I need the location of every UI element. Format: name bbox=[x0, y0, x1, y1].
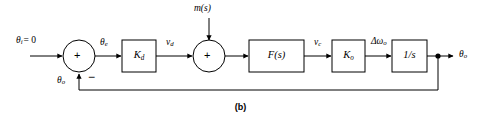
error-summer-plus-sign: + bbox=[74, 50, 80, 61]
block-label-fs: F(s) bbox=[249, 50, 304, 62]
block-label-kd: Kd bbox=[122, 50, 156, 62]
figure-block-diagram: θi= 0 θe vd vc Δωo θo θo m(s) + − + Kd F… bbox=[0, 0, 481, 117]
label-feedback-theta-o: θo bbox=[57, 76, 65, 86]
label-error-theta-e: θe bbox=[100, 38, 108, 48]
disturbance-summer-plus-sign: + bbox=[204, 50, 210, 61]
label-output-theta-o: θo bbox=[459, 50, 467, 60]
label-input-theta-i: θi= 0 bbox=[16, 36, 36, 46]
label-disturbance-ms: m(s) bbox=[194, 4, 211, 14]
output-junction-dot bbox=[435, 53, 440, 58]
figure-caption: (b) bbox=[0, 103, 481, 112]
label-vc: vc bbox=[314, 38, 321, 48]
block-label-ko: Ko bbox=[332, 50, 365, 62]
label-delta-omega-o: Δωo bbox=[371, 37, 387, 47]
block-label-integrator: 1/s bbox=[392, 50, 427, 62]
error-summer-minus-sign: − bbox=[88, 71, 95, 83]
label-vd: vd bbox=[166, 38, 174, 48]
